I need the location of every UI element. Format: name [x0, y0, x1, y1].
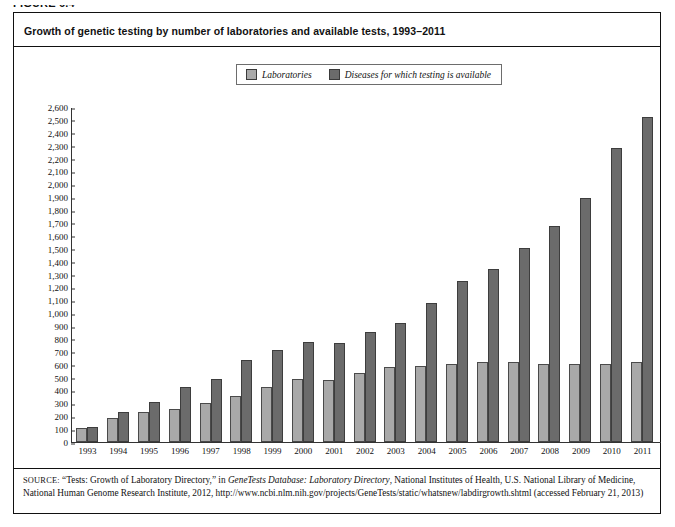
source-note: SOURCE: “Tests: Growth of Laboratory Dir…	[23, 474, 651, 501]
bar-group	[565, 108, 596, 442]
bar-laboratories	[354, 373, 365, 442]
bar-group	[164, 108, 195, 442]
bar-laboratories	[569, 364, 580, 442]
bar-group	[534, 108, 565, 442]
bar-group	[288, 108, 319, 442]
x-axis-label: 2004	[411, 446, 442, 456]
bar-diseases	[611, 148, 622, 442]
bar-group	[472, 108, 503, 442]
y-axis-tick-label: 1,500	[48, 245, 71, 254]
x-axis-label: 2010	[596, 446, 627, 456]
x-axis-line	[71, 442, 661, 443]
bar-group	[503, 108, 534, 442]
y-axis-tick-label: 1,400	[48, 258, 71, 267]
x-axis-label: 2000	[288, 446, 319, 456]
y-axis-tick-label: 200	[55, 413, 72, 422]
bar-group	[349, 108, 380, 442]
bar-laboratories	[292, 379, 303, 442]
bar-laboratories	[261, 387, 272, 442]
y-axis-tick-label: 100	[55, 426, 72, 435]
x-axis-label: 1993	[72, 446, 103, 456]
x-axis-label: 2007	[504, 446, 535, 456]
bar-laboratories	[600, 364, 611, 442]
y-axis-tick-label: 500	[55, 374, 72, 383]
bar-group	[226, 108, 257, 442]
x-axis-labels: 1993199419951996199719981999200020012002…	[72, 446, 658, 456]
y-axis-tick-label: 0	[64, 439, 72, 448]
bar-group	[134, 108, 165, 442]
bar-diseases	[211, 379, 222, 442]
bar-laboratories	[415, 366, 426, 442]
y-axis-tick: 100	[55, 426, 72, 435]
chart-area: 01002003004005006007008009001,0001,1001,…	[14, 13, 660, 513]
bar-group	[195, 108, 226, 442]
bar-diseases	[549, 226, 560, 442]
bar-group	[380, 108, 411, 442]
source-italic-1: GeneTests Database: Laboratory Directory	[228, 475, 390, 485]
bar-laboratories	[138, 412, 149, 442]
bar-group	[72, 108, 103, 442]
y-axis-tick: 1,000	[48, 310, 71, 319]
bar-group	[596, 108, 627, 442]
y-axis-tick-label: 1,100	[48, 297, 71, 306]
bar-diseases	[519, 248, 530, 442]
bar-laboratories	[230, 396, 241, 442]
y-axis-tick: 1,200	[48, 284, 71, 293]
x-axis-label: 2005	[442, 446, 473, 456]
y-axis-tick-label: 800	[55, 335, 72, 344]
y-axis-tick-label: 2,300	[48, 142, 71, 151]
bar-diseases	[241, 360, 252, 442]
y-axis-tick-label: 2,100	[48, 168, 71, 177]
y-axis-tick: 500	[55, 374, 72, 383]
y-axis-tick-label: 1,000	[48, 310, 71, 319]
bar-group	[442, 108, 473, 442]
bar-laboratories	[631, 362, 642, 442]
x-axis-label: 1997	[195, 446, 226, 456]
bar-diseases	[303, 342, 314, 442]
bar-laboratories	[538, 364, 549, 442]
bar-diseases	[149, 402, 160, 442]
x-axis-label: 2009	[566, 446, 597, 456]
bar-laboratories	[446, 364, 457, 442]
x-axis-label: 1999	[257, 446, 288, 456]
bar-laboratories	[107, 418, 118, 442]
bar-diseases	[488, 269, 499, 442]
bar-diseases	[87, 427, 98, 442]
bar-laboratories	[508, 362, 519, 442]
y-axis-tick: 2,500	[48, 116, 71, 125]
x-axis-label: 1995	[134, 446, 165, 456]
bar-laboratories	[200, 403, 211, 442]
bar-group	[103, 108, 134, 442]
y-axis-tick: 1,400	[48, 258, 71, 267]
bar-diseases	[334, 343, 345, 442]
bar-group	[257, 108, 288, 442]
y-axis-tick-label: 1,700	[48, 219, 71, 228]
x-axis-label: 1994	[103, 446, 134, 456]
y-axis-tick-label: 1,600	[48, 232, 71, 241]
y-axis-tick-label: 600	[55, 361, 72, 370]
bar-laboratories	[323, 380, 334, 442]
y-axis-tick: 300	[55, 400, 72, 409]
y-axis-tick: 600	[55, 361, 72, 370]
y-axis-tick-label: 2,500	[48, 116, 71, 125]
plot-region: 01002003004005006007008009001,0001,1001,…	[71, 108, 657, 443]
bar-diseases	[180, 387, 191, 442]
x-axis-label: 2001	[319, 446, 350, 456]
y-axis-tick-label: 300	[55, 400, 72, 409]
y-axis-tick-label: 1,800	[48, 207, 71, 216]
source-text-1: “Tests: Growth of Laboratory Directory,”…	[60, 475, 228, 485]
x-axis-label: 2003	[380, 446, 411, 456]
y-axis-tick: 2,200	[48, 155, 71, 164]
bar-group	[411, 108, 442, 442]
bar-diseases	[395, 323, 406, 442]
y-axis-tick-label: 1,300	[48, 271, 71, 280]
source-label: SOURCE:	[23, 476, 60, 485]
source-divider	[14, 468, 660, 469]
x-axis-label: 2011	[627, 446, 658, 456]
y-axis-tick-label: 2,600	[48, 104, 71, 113]
y-axis-tick: 400	[55, 387, 72, 396]
bar-group	[626, 108, 657, 442]
bar-laboratories	[169, 409, 180, 442]
x-axis-label: 2008	[535, 446, 566, 456]
y-axis-tick: 800	[55, 335, 72, 344]
